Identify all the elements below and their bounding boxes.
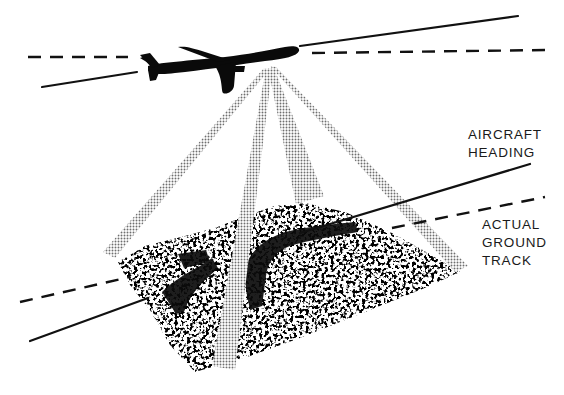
ground-track-label-line3: TRACK (482, 252, 547, 270)
scan-geometry-diagram (0, 0, 564, 395)
terrain-patch (118, 203, 460, 372)
aircraft-heading-label-line1: AIRCRAFT (468, 126, 542, 144)
ground-track-label: ACTUAL GROUND TRACK (482, 216, 547, 270)
ground-track-label-line2: GROUND (482, 234, 547, 252)
aircraft-heading-label: AIRCRAFT HEADING (468, 126, 542, 162)
aircraft-heading-label-line2: HEADING (468, 144, 542, 162)
ground-track-label-line1: ACTUAL (482, 216, 547, 234)
